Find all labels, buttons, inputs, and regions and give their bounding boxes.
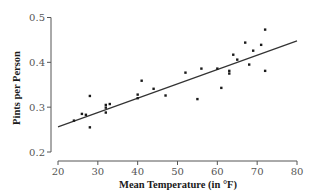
data-point [152,88,154,90]
data-point [228,72,230,74]
data-point [236,58,238,60]
data-point [260,44,262,46]
data-point [232,54,234,56]
data-point [164,94,166,96]
data-point [220,87,222,89]
data-point [105,104,107,106]
regression-line [58,41,297,127]
data-point [252,49,254,51]
data-point [244,41,246,43]
data-point [216,67,218,69]
x-tick-label: 40 [131,166,144,177]
data-point [136,97,138,99]
data-point [136,93,138,95]
x-tick-label: 60 [211,166,224,177]
data-point [105,106,107,108]
y-tick-label: 0.2 [29,147,45,158]
scatter-chart: 0.20.30.40.5 20304050607080 Pints per Pe… [0,0,318,196]
data-point [228,70,230,72]
data-point [81,113,83,115]
x-tick-label: 30 [91,166,104,177]
data-point [109,103,111,105]
data-point [200,67,202,69]
data-point [105,111,107,113]
x-tick-label: 50 [171,166,184,177]
data-point [264,28,266,30]
data-point [264,70,266,72]
y-axis: 0.20.30.40.5 [29,12,51,158]
data-points [73,28,267,128]
y-axis-title: Pints per Person [11,51,22,125]
x-tick-label: 70 [251,166,264,177]
data-point [184,71,186,73]
x-axis-title: Mean Temperature (in °F) [119,179,238,191]
data-point [89,95,91,97]
x-tick-label: 20 [52,166,65,177]
data-point [89,126,91,128]
data-point [140,80,142,82]
x-tick-label: 80 [291,166,304,177]
regression-line-group [58,41,297,127]
data-point [248,63,250,65]
data-point [85,114,87,116]
y-tick-label: 0.3 [29,102,45,113]
data-point [73,119,75,121]
data-point [196,98,198,100]
y-tick-label: 0.5 [29,12,45,23]
y-tick-label: 0.4 [29,57,45,68]
x-axis: 20304050607080 [52,161,304,177]
